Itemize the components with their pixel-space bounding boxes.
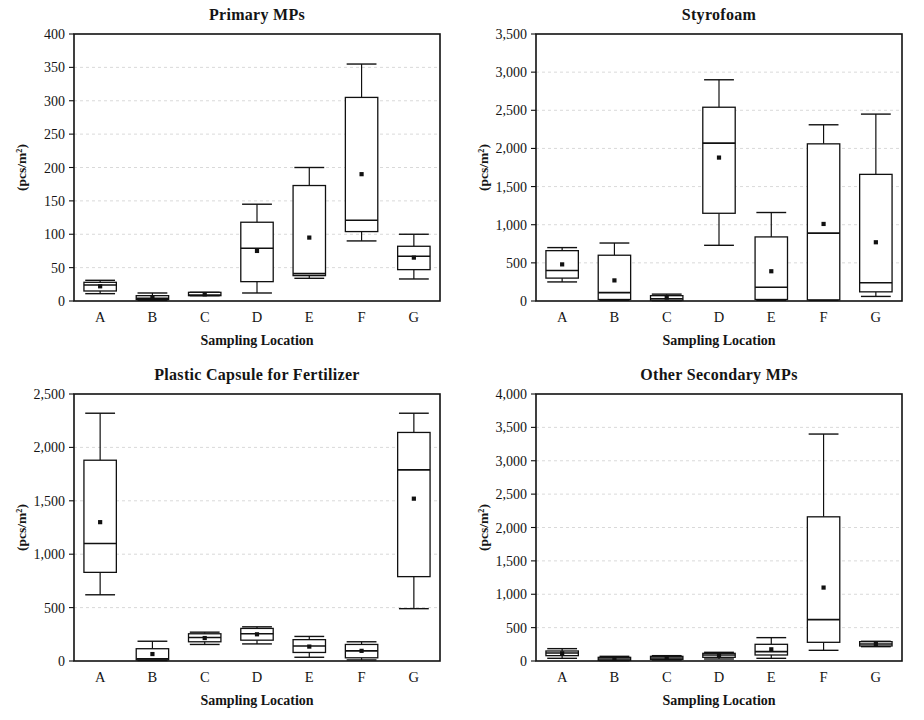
y-tick-label: 4,000 [496, 387, 528, 402]
y-tick-label: 350 [44, 60, 65, 75]
box-plot-G [860, 641, 892, 646]
x-tick-label-B: B [148, 309, 158, 325]
y-tick-label: 2,000 [496, 521, 528, 536]
x-tick-label-C: C [200, 669, 210, 685]
x-tick-label-F: F [358, 669, 366, 685]
x-tick-label-A: A [95, 669, 106, 685]
y-tick-label: 1,500 [496, 554, 528, 569]
y-tick-label: 2,000 [34, 440, 66, 455]
box-plot-D [241, 627, 273, 644]
mean-marker [98, 284, 102, 288]
mean-marker [203, 636, 207, 640]
x-tick-label-A: A [557, 669, 568, 685]
x-tick-label-B: B [610, 309, 620, 325]
box-plot-E [293, 636, 325, 657]
box-plot-C [189, 632, 221, 644]
mean-marker [255, 632, 259, 636]
box-plot-A [546, 649, 578, 659]
mean-marker [359, 172, 363, 176]
y-tick-label: 300 [44, 94, 65, 109]
y-tick-label: 500 [506, 256, 527, 271]
box-plot-A [546, 248, 578, 282]
mean-marker [612, 657, 616, 661]
y-tick-label: 0 [520, 654, 527, 669]
x-tick-label-C: C [662, 669, 672, 685]
y-tick-label: 3,500 [496, 420, 528, 435]
mean-marker [560, 651, 564, 655]
y-tick-label: 3,500 [496, 27, 528, 42]
y-tick-label: 0 [520, 294, 527, 309]
box-plot-E [755, 213, 787, 301]
panel-other-secondary-mps: Other Secondary MPs05001,0001,5002,0002,… [462, 360, 924, 720]
x-tick-label-D: D [252, 309, 262, 325]
mean-marker [203, 292, 207, 296]
box-plot-F [807, 434, 839, 650]
y-tick-label: 2,000 [496, 141, 528, 156]
y-tick-label: 2,500 [496, 103, 528, 118]
box-plot-D [703, 652, 735, 659]
box-plot-C [651, 294, 683, 300]
x-tick-label-G: G [871, 309, 882, 325]
x-tick-label-C: C [662, 309, 672, 325]
panel-plastic-capsule-for-fertilizer: Plastic Capsule for Fertilizer05001,0001… [0, 360, 462, 720]
y-tick-label: 1,000 [496, 218, 528, 233]
box-plot-G [398, 413, 430, 608]
x-tick-label-G: G [409, 309, 420, 325]
box-plot-G [398, 234, 430, 279]
mean-marker [769, 647, 773, 651]
y-tick-label: 0 [58, 294, 65, 309]
y-tick-label: 500 [506, 621, 527, 636]
mean-marker [717, 653, 721, 657]
x-tick-label-A: A [557, 309, 568, 325]
y-tick-label: 250 [44, 127, 65, 142]
y-tick-label: 0 [58, 654, 65, 669]
box-iqr [860, 174, 892, 291]
chart-title: Styrofoam [682, 6, 757, 24]
mean-marker [665, 656, 669, 660]
box-plot-E [755, 638, 787, 659]
chart-svg-primary-mps: Primary MPs050100150200250300350400(pcs/… [0, 0, 462, 360]
box-plot-F [345, 64, 377, 241]
box-iqr [703, 107, 735, 213]
x-tick-label-G: G [409, 669, 420, 685]
x-axis-title: Sampling Location [662, 693, 775, 708]
mean-marker [412, 497, 416, 501]
mean-marker [150, 296, 154, 300]
mean-marker [821, 222, 825, 226]
x-tick-label-A: A [95, 309, 106, 325]
chart-title: Other Secondary MPs [640, 366, 797, 384]
mean-marker [717, 155, 721, 159]
box-iqr [293, 186, 325, 276]
x-tick-label-B: B [610, 669, 620, 685]
x-tick-label-F: F [820, 669, 828, 685]
y-tick-label: 1,000 [496, 587, 528, 602]
x-tick-label-D: D [714, 309, 724, 325]
box-plot-D [241, 204, 273, 293]
box-plot-A [84, 280, 116, 293]
panel-primary-mps: Primary MPs050100150200250300350400(pcs/… [0, 0, 462, 360]
y-tick-label: 1,000 [34, 547, 66, 562]
x-axis-title: Sampling Location [662, 333, 775, 348]
box-plot-B [598, 656, 630, 660]
box-plot-G [860, 114, 892, 296]
mean-marker [612, 278, 616, 282]
mean-marker [307, 235, 311, 239]
y-axis-title: (pcs/m²) [476, 144, 491, 191]
mean-marker [255, 249, 259, 253]
box-iqr [84, 460, 116, 572]
box-iqr [398, 432, 430, 576]
panel-styrofoam: Styrofoam05001,0001,5002,0002,5003,0003,… [462, 0, 924, 360]
x-tick-label-F: F [820, 309, 828, 325]
x-axis-title: Sampling Location [200, 333, 313, 348]
chart-title: Plastic Capsule for Fertilizer [154, 366, 360, 384]
mean-marker [769, 269, 773, 273]
mean-marker [98, 520, 102, 524]
y-tick-label: 150 [44, 194, 65, 209]
x-tick-label-C: C [200, 309, 210, 325]
box-plot-E [293, 168, 325, 279]
box-plot-C [189, 292, 221, 296]
box-iqr [807, 517, 839, 642]
x-tick-label-G: G [871, 669, 882, 685]
box-iqr [755, 237, 787, 300]
mean-marker [307, 644, 311, 648]
